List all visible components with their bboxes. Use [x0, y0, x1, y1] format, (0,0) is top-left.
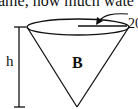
radius-label: 20 — [128, 16, 138, 32]
height-bracket — [14, 27, 26, 107]
cone-diagram — [0, 0, 138, 109]
cone-label: B — [72, 54, 83, 72]
height-label: h — [6, 53, 14, 70]
